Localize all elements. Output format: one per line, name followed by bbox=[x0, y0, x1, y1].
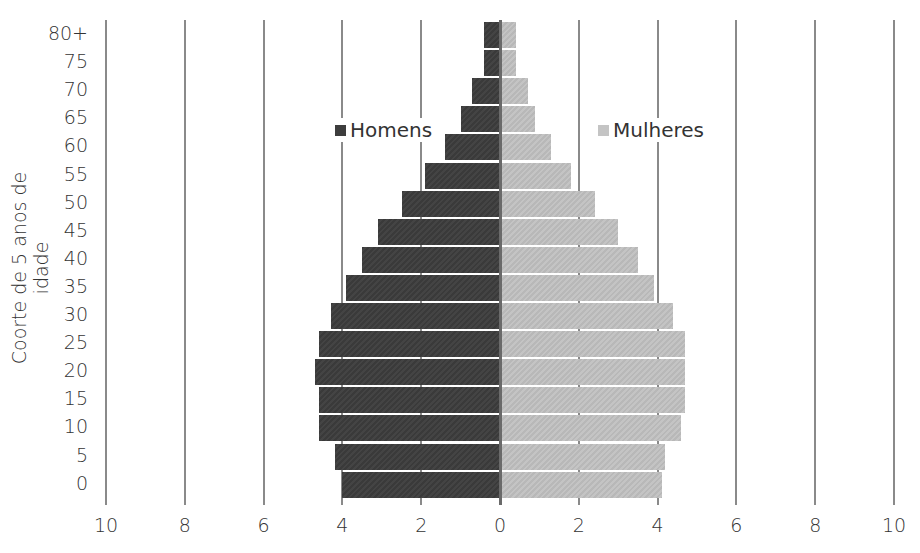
x-tick-label: 0 bbox=[494, 514, 506, 536]
x-tick-label: 6 bbox=[258, 514, 270, 536]
bar-women bbox=[500, 331, 685, 357]
bar-women bbox=[500, 247, 638, 273]
x-tick-label: 10 bbox=[94, 514, 118, 536]
bar-men bbox=[445, 134, 500, 160]
bar-women bbox=[500, 303, 673, 329]
x-tick-label: 4 bbox=[652, 514, 664, 536]
bar-men bbox=[319, 387, 500, 413]
x-tick-label: 8 bbox=[809, 514, 821, 536]
y-tick-label: 0 bbox=[30, 472, 88, 494]
gridline bbox=[893, 20, 895, 505]
bar-men bbox=[342, 472, 500, 498]
x-tick-label: 4 bbox=[336, 514, 348, 536]
bar-women bbox=[500, 444, 665, 470]
bar-men bbox=[484, 22, 500, 48]
y-tick-label: 10 bbox=[30, 415, 88, 437]
bar-men bbox=[425, 163, 500, 189]
legend-label-women: Mulheres bbox=[613, 118, 704, 142]
y-axis-title: Coorte de 5 anos de idade bbox=[8, 158, 52, 378]
y-tick-label: 80+ bbox=[30, 22, 88, 44]
bar-women bbox=[500, 191, 595, 217]
bar-men bbox=[472, 78, 500, 104]
bar-men bbox=[362, 247, 500, 273]
bar-men bbox=[346, 275, 500, 301]
bar-women bbox=[500, 275, 654, 301]
bar-women bbox=[500, 106, 535, 132]
x-tick-label: 6 bbox=[730, 514, 742, 536]
gridline bbox=[814, 20, 816, 505]
x-tick-label: 8 bbox=[179, 514, 191, 536]
bar-women bbox=[500, 78, 528, 104]
bar-women bbox=[500, 22, 516, 48]
bar-men bbox=[319, 331, 500, 357]
bar-men bbox=[319, 415, 500, 441]
bar-women bbox=[500, 134, 551, 160]
bar-men bbox=[315, 359, 500, 385]
bar-women bbox=[500, 415, 681, 441]
bar-men bbox=[402, 191, 501, 217]
bar-women bbox=[500, 472, 662, 498]
y-tick-label: 5 bbox=[30, 444, 88, 466]
gridline bbox=[735, 20, 737, 505]
legend-label-men: Homens bbox=[350, 118, 432, 142]
legend-item-women: Mulheres bbox=[596, 118, 706, 142]
x-tick-label: 2 bbox=[573, 514, 585, 536]
bar-men bbox=[461, 106, 500, 132]
x-tick-label: 10 bbox=[882, 514, 906, 536]
y-tick-label: 15 bbox=[30, 387, 88, 409]
zero-axis-line bbox=[499, 20, 502, 505]
bar-men bbox=[378, 219, 500, 245]
bar-women bbox=[500, 163, 571, 189]
x-tick-label: 2 bbox=[415, 514, 427, 536]
bar-women bbox=[500, 359, 685, 385]
population-pyramid-chart: 80+757065605550454035302520151050 108642… bbox=[0, 0, 920, 553]
y-tick-label: 75 bbox=[30, 50, 88, 72]
gridline bbox=[105, 20, 107, 505]
y-tick-label: 70 bbox=[30, 78, 88, 100]
y-tick-label: 60 bbox=[30, 134, 88, 156]
bar-men bbox=[335, 444, 500, 470]
bar-women bbox=[500, 219, 618, 245]
bar-men bbox=[331, 303, 500, 329]
bar-women bbox=[500, 387, 685, 413]
legend-item-men: Homens bbox=[333, 118, 434, 142]
bar-women bbox=[500, 50, 516, 76]
gridline bbox=[263, 20, 265, 505]
legend-swatch-women bbox=[598, 125, 609, 136]
y-tick-label: 65 bbox=[30, 106, 88, 128]
gridline bbox=[184, 20, 186, 505]
legend-swatch-men bbox=[335, 125, 346, 136]
bar-men bbox=[484, 50, 500, 76]
